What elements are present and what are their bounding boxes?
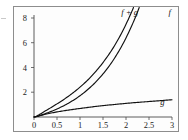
curve-g [34, 100, 172, 117]
function-plot-svg: 2 4 6 8 0 0.5 1 1.5 2 2.5 3 f + g f g [13, 6, 179, 132]
y-tick-label-6: 6 [23, 39, 27, 48]
x-tick-label-2: 2 [124, 121, 128, 130]
curve-label-g: g [160, 97, 165, 107]
y-tick-label-2: 2 [23, 88, 27, 97]
y-tick-label-8: 8 [23, 14, 27, 23]
x-tick-label-1p5: 1.5 [98, 121, 108, 130]
y-tick-labels: 2 4 6 8 [23, 14, 28, 97]
curve-label-f: f [169, 7, 173, 17]
page-edge-mark [1, 18, 6, 19]
curve-f [34, 8, 139, 118]
x-tick-label-0: 0 [32, 121, 36, 130]
x-tick-label-2p5: 2.5 [144, 121, 154, 130]
x-tick-labels: 0 0.5 1 1.5 2 2.5 3 [32, 121, 174, 130]
curve-label-f-plus-g: f + g [121, 7, 138, 17]
chart-figure: 2 4 6 8 0 0.5 1 1.5 2 2.5 3 f + g f g [0, 0, 188, 140]
y-tick-label-4: 4 [23, 64, 28, 73]
curve-labels: f + g f g [121, 7, 172, 107]
x-tick-label-0p5: 0.5 [52, 121, 62, 130]
curves-group [34, 8, 172, 118]
curve-f-plus-g [34, 8, 133, 118]
x-tick-label-1: 1 [78, 121, 82, 130]
x-tick-label-3: 3 [170, 121, 174, 130]
